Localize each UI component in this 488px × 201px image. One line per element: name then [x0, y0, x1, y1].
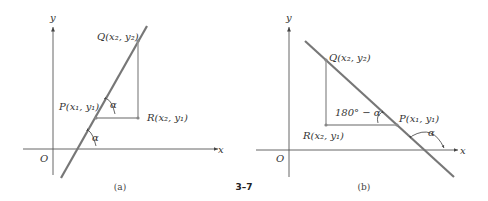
origin-label: O: [276, 153, 284, 164]
angle-label-inner: 180° − α: [335, 107, 381, 118]
y-axis-label: y: [285, 12, 292, 23]
y-axis-label: y: [49, 12, 56, 23]
x-axis-label: x: [218, 144, 224, 155]
point-q-label: Q(x₂, y₂): [329, 52, 371, 63]
point-p: [94, 116, 97, 119]
panel-a: y x O Q(x₂, y₂) P(x₁, y₁) R(x₂, y₁) α α …: [23, 12, 224, 192]
panel-b: y x O Q(x₂, y₂) R(x₂, y₁) P(x₁, y₁) 180°…: [256, 12, 466, 192]
caption-a: (a): [114, 182, 126, 192]
point-p-label: P(x₁, y₁): [398, 113, 439, 124]
angle-label-outer: α: [428, 127, 435, 138]
origin-label: O: [40, 153, 48, 164]
angle-label-upper: α: [110, 99, 117, 110]
angle-label-lower: α: [92, 132, 99, 143]
caption-b: (b): [358, 182, 371, 192]
figure-3-7: y x O Q(x₂, y₂) P(x₁, y₁) R(x₂, y₁) α α …: [0, 0, 488, 201]
point-p-label: P(x₁, y₁): [58, 101, 99, 112]
point-q: [324, 58, 327, 61]
point-r-label: R(x₂, y₁): [302, 130, 344, 141]
point-r-label: R(x₂, y₁): [146, 112, 188, 123]
figure-number: 3–7: [235, 182, 252, 192]
x-axis-label: x: [460, 145, 466, 156]
point-r: [136, 116, 139, 119]
point-r: [324, 123, 327, 126]
point-q-label: Q(x₂, y₂): [97, 31, 139, 42]
